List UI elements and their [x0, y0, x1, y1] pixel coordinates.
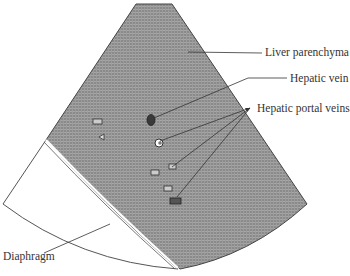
- label-hepatic-vein: Hepatic vein: [290, 73, 348, 85]
- hepatic-vein-icon: [147, 115, 155, 126]
- label-hepatic-portal-veins: Hepatic portal veins: [257, 103, 350, 115]
- label-liver-parenchyma: Liver parenchyma: [265, 47, 349, 59]
- label-diaphragm: Diaphragm: [3, 251, 55, 263]
